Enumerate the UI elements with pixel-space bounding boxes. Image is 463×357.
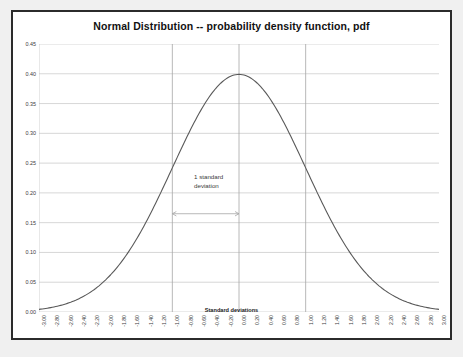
x-axis-tick-label: -3.00: [41, 315, 47, 327]
x-axis-tick-label: -2.60: [68, 315, 74, 327]
x-axis-tick-label: -1.00: [174, 315, 180, 327]
annotation-standard-deviation: 1 standard deviation: [194, 172, 223, 190]
x-axis-tick-label: -0.20: [228, 315, 234, 327]
x-axis-tick-label: -2.40: [81, 315, 87, 327]
x-axis-tick-label: 3.00: [441, 315, 447, 325]
x-axis-tick-label: 2.00: [374, 315, 380, 325]
y-axis-tick-label: 0.15: [26, 220, 37, 226]
y-axis-tick-label: 0.35: [26, 101, 37, 107]
annotation-line-2: deviation: [194, 181, 223, 190]
x-axis-tick-label: -2.80: [54, 315, 60, 327]
x-axis-tick-label: -0.40: [214, 315, 220, 327]
x-axis-tick-label: 2.20: [388, 315, 394, 325]
x-axis-tick-label: -1.20: [161, 315, 167, 327]
y-axis-tick-label: 0.30: [26, 130, 37, 136]
x-axis-tick-label: 1.40: [334, 315, 340, 325]
x-axis-tick-label: -1.40: [148, 315, 154, 327]
x-axis-tick-label: 1.20: [321, 315, 327, 325]
annotation-line-1: 1 standard: [194, 172, 223, 181]
x-axis-tick-label: -2.00: [108, 315, 114, 327]
x-axis-tick-label: 0.00: [241, 315, 247, 325]
x-axis-tick-label: 2.40: [401, 315, 407, 325]
x-axis-tick-label: 1.60: [348, 315, 354, 325]
x-axis-tick-label: 2.80: [428, 315, 434, 325]
chart-title: Normal Distribution -- probability densi…: [13, 20, 450, 32]
x-axis-tick-label: 1.80: [361, 315, 367, 325]
y-axis-tick-label: 0.20: [26, 190, 37, 196]
plot-area: 1 standard deviation 0.000.050.100.150.2…: [39, 44, 439, 312]
x-axis-tick-label: -0.80: [188, 315, 194, 327]
y-axis-tick-label: 0.25: [26, 160, 37, 166]
standard-deviation-arrow: [172, 212, 239, 216]
x-axis-tick-label: -1.60: [134, 315, 140, 327]
y-axis-tick-label: 0.40: [26, 71, 37, 77]
x-axis-tick-label: 0.20: [254, 315, 260, 325]
chart-frame: Normal Distribution -- probability densi…: [11, 10, 452, 340]
y-axis-tick-label: 0.10: [26, 249, 37, 255]
x-axis-title: Standard deviations: [13, 307, 450, 313]
x-axis-tick-label: 0.80: [294, 315, 300, 325]
y-axis-tick-label: 0.05: [26, 279, 37, 285]
chart-canvas: [39, 44, 439, 312]
x-axis-tick-label: -0.60: [201, 315, 207, 327]
x-axis-tick-label: -2.20: [94, 315, 100, 327]
x-axis-tick-label: 2.60: [414, 315, 420, 325]
x-axis-tick-label: 1.00: [308, 315, 314, 325]
x-axis-tick-label: 0.40: [268, 315, 274, 325]
x-axis-tick-label: 0.60: [281, 315, 287, 325]
x-axis-tick-label: -1.80: [121, 315, 127, 327]
y-axis-tick-label: 0.45: [26, 41, 37, 47]
